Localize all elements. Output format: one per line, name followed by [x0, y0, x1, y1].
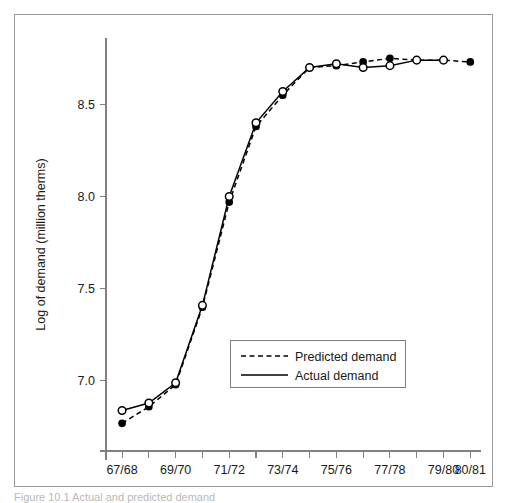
- y-axis-title: Log of demand (million therms): [34, 158, 48, 330]
- x-tick-label: 75/76: [321, 463, 352, 477]
- x-tick-label: 71/72: [214, 463, 245, 477]
- y-tick-label: 8.0: [78, 190, 95, 204]
- x-tick-label: 67/68: [106, 463, 137, 477]
- data-point-predicted: [467, 59, 473, 65]
- data-point-actual: [440, 56, 448, 64]
- figure-frame: 7.07.58.08.567/6869/7071/7273/7475/7677/…: [14, 14, 493, 487]
- data-point-actual: [199, 302, 207, 310]
- data-point-actual: [145, 399, 153, 407]
- data-point-actual: [386, 62, 394, 70]
- y-tick-label: 8.5: [78, 98, 95, 112]
- data-point-actual: [333, 60, 341, 68]
- x-tick-label: 73/74: [267, 463, 298, 477]
- x-tick-label: 80/81: [455, 463, 486, 477]
- legend-label: Predicted demand: [295, 350, 397, 364]
- x-tick-label: 77/78: [374, 463, 405, 477]
- data-point-actual: [172, 379, 180, 387]
- demand-line-chart: 7.07.58.08.567/6869/7071/7273/7475/7677/…: [15, 15, 494, 488]
- data-point-actual: [306, 64, 314, 72]
- y-tick-label: 7.0: [78, 374, 95, 388]
- y-tick-label: 7.5: [78, 282, 95, 296]
- data-point-actual: [279, 88, 287, 96]
- data-point-actual: [252, 119, 260, 127]
- legend-label: Actual demand: [295, 369, 378, 383]
- data-point-actual: [413, 56, 421, 64]
- data-point-predicted: [119, 420, 125, 426]
- x-tick-label: 69/70: [160, 463, 191, 477]
- data-point-actual: [118, 407, 126, 415]
- figure-caption-text: Figure 10.1 Actual and predicted demand: [14, 492, 314, 503]
- data-point-predicted: [387, 55, 393, 61]
- data-point-actual: [359, 64, 367, 72]
- data-point-actual: [225, 193, 233, 201]
- figure-caption: Figure 10.1 Actual and predicted demand: [14, 492, 314, 503]
